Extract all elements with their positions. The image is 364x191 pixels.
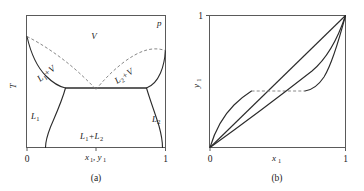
panel-a-region-l2-group: L 2 (151, 114, 160, 125)
panel-b-y-axis-label-group: y 1 (191, 79, 202, 89)
panel-b-x-axis-label-main: x (271, 153, 276, 163)
panel-b-equilibrium-left-branch (210, 91, 252, 148)
panel-b-y-axis-label-main: y (191, 84, 201, 89)
panel-a-xtick-label-center-x: x (84, 152, 89, 162)
panel-a-region-l2-main: L (151, 114, 157, 124)
panel-a-xtick-label-center-mid: , y (93, 152, 102, 162)
panel-b: 1 y 1 0 1 x 1 (b) (191, 11, 348, 184)
panel-a-region-vapor-label: V (91, 31, 98, 41)
panel-a-xtick-label-center-sub2: 1 (103, 156, 106, 163)
panel-a-y-axis-label: T (8, 83, 18, 89)
panel-a-region-l1l2-mid: +L (88, 131, 99, 141)
panel-b-xtick-label-right: 1 (343, 154, 348, 164)
panel-a-xtick-label-left: 0 (25, 154, 30, 164)
panel-a-xtick-label-center-group: x 1 , y 1 (84, 152, 106, 163)
panel-a-left-liquid-lower-boundary (46, 88, 66, 148)
panel-b-ytick-label-top: 1 (198, 11, 203, 21)
panel-b-caption: (b) (271, 173, 282, 184)
panel-a-pressure-label: p (156, 18, 162, 28)
panel-b-xtick-label-left: 0 (208, 154, 213, 164)
figure-container: T p V L 1 +V L 2 +V L 1 (0, 0, 364, 191)
panel-b-diagonal-line (210, 16, 346, 148)
panel-a-xtick-label-right: 1 (163, 154, 168, 164)
panel-a-region-l1l2-main: L (79, 131, 85, 141)
panel-a-right-liquid-boundary (147, 51, 166, 89)
panel-b-y-axis-label-sub: 1 (195, 79, 202, 82)
panel-a: T p V L 1 +V L 2 +V L 1 (8, 16, 168, 185)
panel-b-x-axis-label-sub: 1 (278, 157, 281, 164)
panel-b-x-axis-label-group: x 1 (271, 153, 281, 164)
panel-a-region-l1-sub: 1 (36, 115, 39, 122)
panel-a-region-l1-main: L (30, 111, 36, 121)
phase-diagram-figure: T p V L 1 +V L 2 +V L 1 (0, 0, 364, 191)
panel-a-region-l1l2-sub2: 2 (100, 135, 103, 142)
panel-a-region-l2-sub: 2 (157, 118, 160, 125)
panel-a-left-dew-curve (27, 37, 96, 90)
panel-a-region-l1l2-group: L 1 +L 2 (79, 131, 103, 142)
panel-a-region-l1-group: L 1 (30, 111, 39, 122)
panel-b-equilibrium-right-branch (305, 16, 346, 92)
panel-a-caption: (a) (91, 173, 102, 184)
